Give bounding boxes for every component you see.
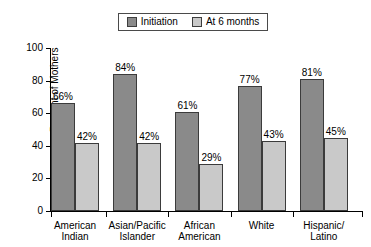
bar-at-6-months-1: 42% [75,143,99,211]
legend-swatch-initiation [127,17,137,27]
bar-value-label: 43% [264,129,284,140]
bar-at-6-months-3: 29% [199,164,223,211]
bar-at-6-months-2: 42% [137,143,161,211]
bar-value-label: 42% [139,131,159,142]
bar-value-label: 29% [201,152,221,163]
category-label-5: Hispanic/ Latino [279,220,369,242]
y-tick-label-40: 40 [32,140,43,151]
bar-value-label: 84% [115,62,135,73]
plot-area: Percent of Mothers 020406080100 66%42%84… [51,48,362,211]
x-axis-line [50,211,363,212]
x-tick-0 [51,212,52,217]
legend-entry-at-6-months: At 6 months [192,17,259,27]
y-tick-80: 80 [46,81,51,82]
bar-initiation-1: 66% [51,103,75,211]
y-tick-100: 100 [46,48,51,49]
x-tick-5 [362,212,363,217]
bar-value-label: 42% [77,131,97,142]
x-tick-2 [168,212,169,217]
x-tick-4 [293,212,294,217]
bar-value-label: 61% [177,100,197,111]
grouped-bar-chart: Initiation At 6 months Percent of Mother… [0,0,371,247]
y-tick-label-0: 0 [37,205,43,216]
legend-label-initiation: Initiation [141,17,178,27]
y-tick-label-20: 20 [32,172,43,183]
bar-initiation-4: 77% [238,86,262,212]
legend-swatch-at-6-months [192,17,202,27]
bar-at-6-months-4: 43% [262,141,286,211]
legend-label-at-6-months: At 6 months [206,17,259,27]
legend-entry-initiation: Initiation [127,17,178,27]
y-tick-label-100: 100 [26,42,43,53]
bar-value-label: 45% [326,126,346,137]
bar-at-6-months-5: 45% [324,138,348,211]
bar-initiation-2: 84% [113,74,137,211]
bar-value-label: 81% [302,67,322,78]
x-tick-1 [106,212,107,217]
bar-initiation-3: 61% [175,112,199,211]
chart-legend: Initiation At 6 months [118,13,268,31]
y-tick-label-80: 80 [32,75,43,86]
bar-value-label: 77% [240,74,260,85]
bar-value-label: 66% [53,91,73,102]
x-tick-3 [231,212,232,217]
y-tick-label-60: 60 [32,107,43,118]
bar-initiation-5: 81% [300,79,324,211]
